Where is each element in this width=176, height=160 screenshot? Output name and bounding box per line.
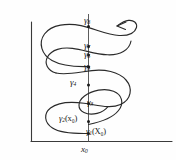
label-x0: x0: [81, 145, 88, 155]
label-x0-subscript: 0: [85, 148, 88, 154]
spiral-top-arrow-tail: [117, 20, 137, 27]
label-gamma2-argument: (x₀): [65, 113, 77, 123]
label-gamma1-argument: (X₀): [92, 126, 106, 136]
label-gamma2: γ2(x₀): [59, 114, 77, 124]
label-gamma6: γ6: [84, 50, 90, 60]
label-gamma3: γ3: [87, 98, 93, 108]
label-gamma3-subscript: 3: [90, 101, 93, 107]
figure-container: γ8 γ7 γ6 γ5 γ4 γ3 γ2(x₀) γ1(X₀) x0: [0, 0, 176, 160]
label-gamma6-subscript: 6: [87, 53, 90, 59]
marker-gamma4: [87, 84, 90, 87]
label-gamma5: γ5: [84, 62, 90, 72]
marker-gamma2: [87, 120, 90, 123]
axes-group: [31, 22, 172, 142]
label-gamma8: γ8: [84, 16, 90, 26]
label-gamma1: γ1(X₀): [86, 127, 106, 137]
label-gamma5-subscript: 5: [87, 65, 90, 71]
label-gamma4-subscript: 4: [73, 81, 76, 87]
label-gamma8-subscript: 8: [87, 19, 90, 25]
label-gamma4: γ4: [70, 78, 76, 88]
spiral-inner-turn-lower: [79, 90, 122, 125]
